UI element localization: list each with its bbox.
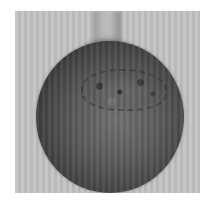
micrograph-frame [15,11,200,193]
droplet-sphere [36,41,184,193]
surface-texture [81,69,167,111]
